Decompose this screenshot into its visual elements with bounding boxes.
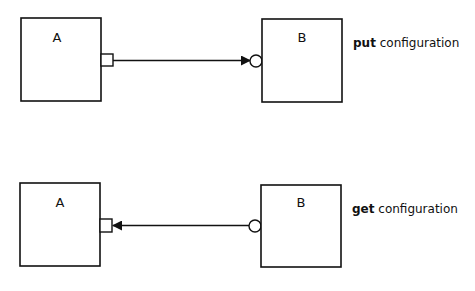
required-port-circle <box>250 55 262 67</box>
caption-keyword: put <box>353 36 376 50</box>
put-diagram: A B put configuration <box>21 18 459 102</box>
provided-port-square <box>100 219 112 232</box>
provided-port-square <box>101 54 113 66</box>
caption-keyword: get <box>352 202 375 216</box>
get-caption: get configuration <box>352 202 458 216</box>
component-a-label: A <box>53 30 62 45</box>
put-caption: put configuration <box>353 36 459 50</box>
caption-rest: configuration <box>374 202 457 216</box>
component-a-label: A <box>56 195 65 210</box>
component-b-label: B <box>297 195 306 210</box>
caption-rest: configuration <box>376 36 459 50</box>
diagram-canvas: A B put configuration A B get configurat… <box>0 0 475 291</box>
get-diagram: A B get configuration <box>20 183 458 267</box>
component-b-label: B <box>298 30 307 45</box>
required-port-circle <box>249 220 261 232</box>
